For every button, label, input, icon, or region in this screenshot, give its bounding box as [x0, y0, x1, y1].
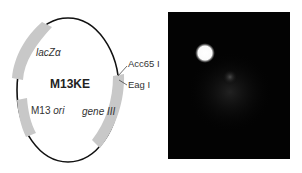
m13-ori-italic: ori	[53, 105, 65, 116]
site-label-acc65i: Acc65 I	[128, 58, 160, 69]
fluorescence-image	[168, 12, 290, 159]
feature-label-m13-ori: M13 ori	[31, 105, 65, 116]
plasmid-map: lacZα M13KE M13 ori gene III Acc65 I Eag…	[0, 0, 160, 173]
site-label-eagi: Eag I	[128, 79, 150, 90]
diffuse-glow	[186, 50, 274, 134]
fluorescence-image-canvas	[168, 12, 290, 159]
m13-ori-prefix: M13	[31, 105, 53, 116]
plasmid-name: M13KE	[50, 77, 90, 91]
faint-spot	[222, 69, 238, 85]
feature-label-lacz: lacZα	[36, 47, 61, 58]
feature-m13-ori	[17, 98, 36, 137]
bright-spot	[195, 43, 215, 63]
feature-label-gene-iii: gene III	[82, 106, 116, 117]
